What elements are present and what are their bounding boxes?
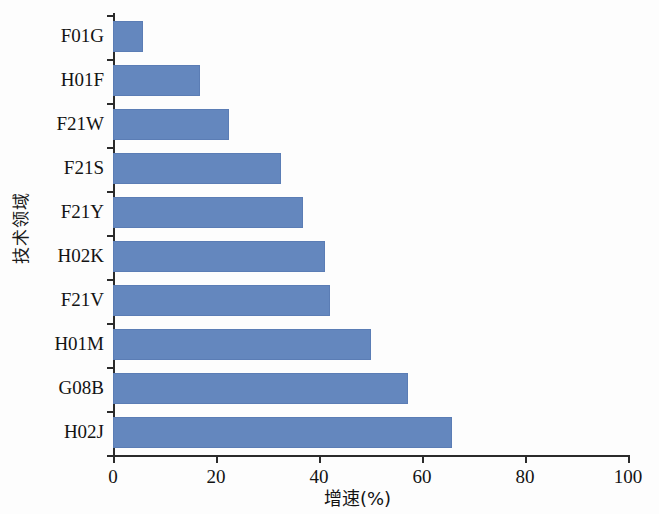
category-label: G08B xyxy=(59,375,104,401)
bar-row: F21S xyxy=(113,147,628,191)
bar-row: H02J xyxy=(113,411,628,455)
y-axis-tick xyxy=(107,147,115,149)
bar xyxy=(113,329,371,360)
bar-row: F01G xyxy=(113,15,628,59)
y-axis-tick xyxy=(107,191,115,193)
x-axis-tick xyxy=(216,455,218,463)
category-label: H01M xyxy=(54,331,104,357)
category-label: F21W xyxy=(57,111,105,137)
category-label: F21S xyxy=(64,155,104,181)
x-axis-tick xyxy=(525,455,527,463)
y-axis-title-text: 技术领域 xyxy=(7,192,32,264)
x-axis-title: 增速(%) xyxy=(0,484,659,510)
y-axis-tick xyxy=(107,323,115,325)
y-axis-tick xyxy=(107,103,115,105)
bar xyxy=(113,153,281,184)
bar xyxy=(113,21,143,52)
bar-row: G08B xyxy=(113,367,628,411)
x-axis-tick xyxy=(422,455,424,463)
bar-row: F21V xyxy=(113,279,628,323)
bar-row: F21W xyxy=(113,103,628,147)
bar-row: H02K xyxy=(113,235,628,279)
bar xyxy=(113,241,325,272)
bar xyxy=(113,65,200,96)
y-axis-tick xyxy=(107,279,115,281)
category-label: H02J xyxy=(64,419,104,445)
bar xyxy=(113,197,303,228)
category-label: H01F xyxy=(61,67,104,93)
bar-row: F21Y xyxy=(113,191,628,235)
bar xyxy=(113,109,229,140)
x-axis-title-text: 增速(%) xyxy=(324,484,391,510)
category-label: F01G xyxy=(61,23,104,49)
bar xyxy=(113,417,452,448)
x-axis-tick xyxy=(113,455,115,463)
y-axis-tick xyxy=(107,59,115,61)
bar xyxy=(113,373,408,404)
x-axis-tick xyxy=(319,455,321,463)
x-axis-tick xyxy=(628,455,630,463)
category-label: H02K xyxy=(58,243,104,269)
y-axis-tick xyxy=(107,15,115,17)
y-axis-tick xyxy=(107,411,115,413)
bar-row: H01M xyxy=(113,323,628,367)
bar-row: H01F xyxy=(113,59,628,103)
plot-area: F01GH01FF21WF21SF21YH02KF21VH01MG08BH02J xyxy=(113,15,628,455)
bar xyxy=(113,285,330,316)
category-label: F21Y xyxy=(61,199,104,225)
bar-chart: 技术领域 F01GH01FF21WF21SF21YH02KF21VH01MG08… xyxy=(0,0,659,514)
y-axis-tick xyxy=(107,235,115,237)
y-axis-tick xyxy=(107,367,115,369)
y-axis-title: 技术领域 xyxy=(2,0,36,455)
x-axis-line xyxy=(113,455,630,457)
category-label: F21V xyxy=(61,287,104,313)
